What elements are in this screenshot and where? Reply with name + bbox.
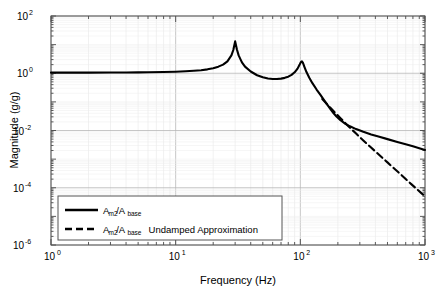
x-tick-label: 10 [44, 251, 56, 262]
x-tick-exponent: 2 [306, 249, 310, 256]
x-tick-label: 10 [293, 251, 305, 262]
x-tick-label: 10 [169, 251, 181, 262]
y-tick-exponent: 2 [29, 9, 33, 16]
chart-background [0, 0, 445, 294]
y-axis-label: Magnitude (g/g) [8, 91, 20, 168]
y-tick-exponent: -6 [25, 238, 31, 245]
y-tick-exponent: -4 [25, 181, 31, 188]
y-tick-exponent: -2 [25, 124, 31, 131]
legend-label-sub2-1: base [127, 229, 141, 236]
magnitude-frequency-chart: 10010110210310210010-210-410-6 Am2/Abase… [0, 0, 445, 294]
y-tick-label: 10 [13, 183, 25, 194]
legend-box: Am2/AbaseAm2/AbaseUndamped Approximation [58, 196, 282, 240]
x-tick-exponent: 3 [431, 249, 435, 256]
x-tick-exponent: 1 [182, 249, 186, 256]
legend-label-slash-1: /A [116, 224, 126, 235]
chart-canvas: 10010110210310210010-210-410-6 Am2/Abase… [0, 0, 445, 294]
y-tick-label: 10 [17, 11, 29, 22]
legend-label-sub2-0: base [127, 210, 141, 217]
y-tick-label: 10 [13, 240, 25, 251]
x-tick-exponent: 0 [57, 249, 61, 256]
y-tick-label: 10 [17, 68, 29, 79]
legend-label-slash-0: /A [116, 205, 126, 216]
legend-label-extra-1: Undamped Approximation [149, 224, 258, 235]
x-tick-label: 10 [418, 251, 430, 262]
y-tick-exponent: 0 [29, 66, 33, 73]
x-axis-label: Frequency (Hz) [200, 274, 276, 286]
